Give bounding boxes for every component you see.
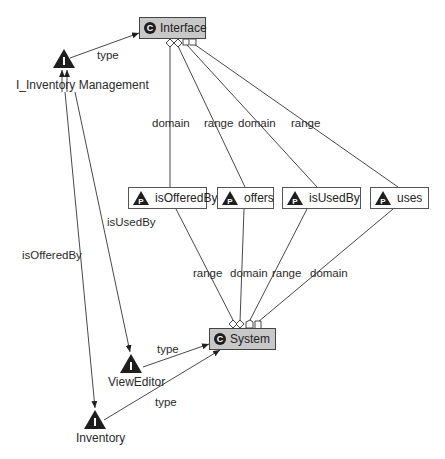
edge-label-range: range <box>204 117 233 130</box>
property-badge-icon: P <box>375 191 391 205</box>
interface-connector-markers <box>166 39 196 47</box>
edge-interface-isusedby-domain <box>186 44 317 187</box>
edge-label-type: type <box>155 396 177 409</box>
clipped-caption <box>10 452 430 459</box>
edge-label-domain: domain <box>230 267 268 280</box>
class-label: System <box>230 332 270 346</box>
system-connector-markers <box>229 320 261 328</box>
edge-label-domain: domain <box>152 117 190 130</box>
individual-icon[interactable] <box>120 354 142 373</box>
class-badge-icon: C <box>144 22 156 34</box>
edge-label-range: range <box>272 267 301 280</box>
svg-text:P: P <box>227 197 233 206</box>
property-badge-icon: P <box>222 191 238 205</box>
property-offers[interactable]: P offers <box>217 187 274 209</box>
property-uses[interactable]: P uses <box>370 187 429 209</box>
property-label: isOfferedBy <box>155 191 217 205</box>
diagram-edges <box>0 0 445 459</box>
edge-label-domain: domain <box>238 117 276 130</box>
individual-icon[interactable] <box>84 410 106 429</box>
class-interface[interactable]: C Interface <box>139 17 206 39</box>
property-badge-icon: P <box>133 191 149 205</box>
property-badge-icon: P <box>287 191 303 205</box>
svg-text:P: P <box>138 197 144 206</box>
svg-text:P: P <box>292 197 298 206</box>
edge-label-range: range <box>291 117 320 130</box>
property-label: uses <box>397 191 422 205</box>
class-badge-icon: C <box>214 333 226 345</box>
edge-label-range: range <box>193 267 222 280</box>
edge-label-type: type <box>97 49 119 62</box>
svg-text:P: P <box>380 197 386 206</box>
class-system[interactable]: C System <box>209 328 276 350</box>
edge-offers-system-domain <box>240 209 244 322</box>
class-label: Interface <box>160 21 207 35</box>
edge-label-domain: domain <box>310 267 348 280</box>
individual-label-i-inventory-management: I_Inventory Management <box>16 79 149 92</box>
edge-label-isofferedby: isOfferedBy <box>22 249 82 262</box>
property-label: offers <box>244 191 274 205</box>
edge-interface-uses-range <box>194 44 398 187</box>
property-label: isUsedBy <box>309 191 360 205</box>
edge-label-type: type <box>157 343 179 356</box>
edge-label-isusedby: isUsedBy <box>107 216 156 229</box>
property-isusedby[interactable]: P isUsedBy <box>282 187 361 209</box>
property-isofferedby[interactable]: P isOfferedBy <box>128 187 207 209</box>
individual-label-vieweditor: ViewEditor <box>108 376 165 389</box>
individual-icon[interactable] <box>53 49 75 68</box>
individual-label-inventory: Inventory <box>76 432 125 445</box>
edge-isofferedby-system-range <box>176 209 234 322</box>
